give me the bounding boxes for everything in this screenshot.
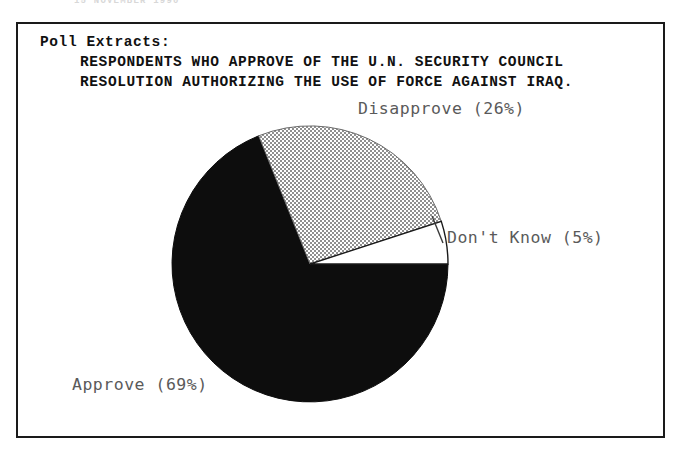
heading-subtitle-line-2: RESOLUTION AUTHORIZING THE USE OF FORCE … <box>80 72 640 92</box>
figure-frame: Poll Extracts: RESPONDENTS WHO APPROVE O… <box>16 22 665 438</box>
heading-block: Poll Extracts: RESPONDENTS WHO APPROVE O… <box>40 32 640 92</box>
page-header-cutoff-text: 15 NOVEMBER 1990 <box>74 0 374 8</box>
heading-subtitle-line-1: RESPONDENTS WHO APPROVE OF THE U.N. SECU… <box>80 52 640 72</box>
page-title: Poll Extracts: <box>40 32 640 52</box>
